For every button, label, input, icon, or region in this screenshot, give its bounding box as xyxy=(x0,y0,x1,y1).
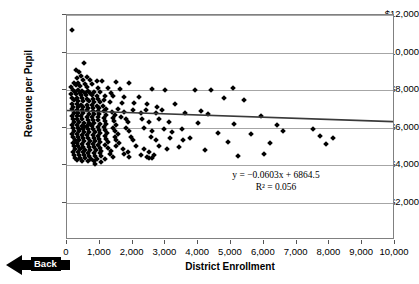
trendline xyxy=(67,15,393,238)
x-tick-label: 2,000 xyxy=(120,246,144,257)
x-tick-mark xyxy=(99,240,100,244)
scatter-chart-figure: Revenue per Pupil $2,000$4,000$6,000$8,0… xyxy=(0,0,419,284)
x-tick-mark xyxy=(394,240,395,244)
x-tick-mark xyxy=(197,240,198,244)
x-tick-mark xyxy=(263,240,264,244)
x-tick-label: 1,000 xyxy=(87,246,111,257)
x-tick-label: 10,000 xyxy=(379,246,408,257)
r-squared-value: R² = 0.056 xyxy=(196,181,356,193)
x-tick-mark xyxy=(361,240,362,244)
back-button-label: Back xyxy=(31,257,61,271)
trendline-segment xyxy=(67,110,393,121)
plot-area xyxy=(66,14,394,239)
regression-annotation: y = −0.0603x + 6864.5 R² = 0.056 xyxy=(196,169,356,193)
x-tick-label: 7,000 xyxy=(284,246,308,257)
x-tick-mark xyxy=(132,240,133,244)
x-tick-label: 8,000 xyxy=(317,246,341,257)
y-axis-title: Revenue per Pupil xyxy=(23,14,34,174)
x-tick-mark xyxy=(164,240,165,244)
x-tick-label: 4,000 xyxy=(185,246,209,257)
back-button[interactable]: Back xyxy=(4,252,72,278)
regression-equation: y = −0.0603x + 6864.5 xyxy=(196,169,356,181)
x-tick-mark xyxy=(328,240,329,244)
x-tick-label: 3,000 xyxy=(153,246,177,257)
x-tick-label: 5,000 xyxy=(218,246,242,257)
x-tick-mark xyxy=(230,240,231,244)
x-tick-mark xyxy=(66,240,67,244)
x-tick-mark xyxy=(296,240,297,244)
x-tick-label: 6,000 xyxy=(251,246,275,257)
x-axis-title: District Enrollment xyxy=(66,261,394,272)
x-tick-label: 9,000 xyxy=(349,246,373,257)
